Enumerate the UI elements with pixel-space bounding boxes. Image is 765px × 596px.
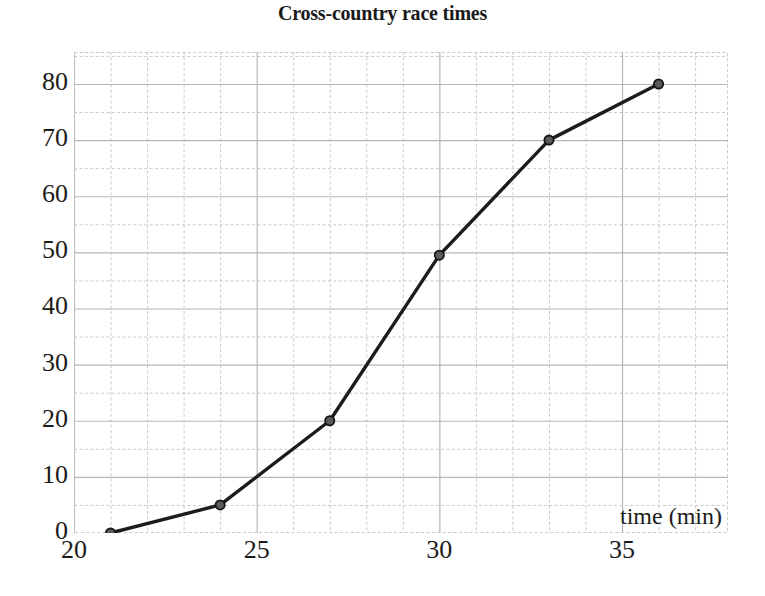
x-tick-label: 20 bbox=[39, 537, 109, 563]
chart-figure: Cross-country race times 010203040506070… bbox=[0, 0, 765, 596]
x-axis-title: time (min) bbox=[620, 503, 722, 529]
x-tick-label: 25 bbox=[222, 537, 292, 563]
x-tick-label: 35 bbox=[587, 537, 657, 563]
x-tick-label: 30 bbox=[404, 537, 474, 563]
